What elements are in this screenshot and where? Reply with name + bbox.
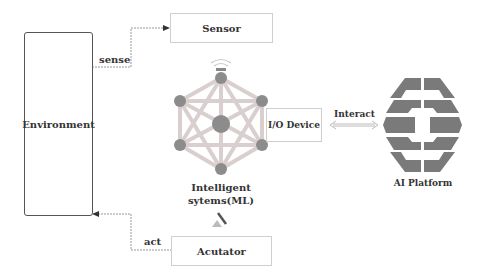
wifi-icon	[211, 60, 231, 67]
robot-arm-icon	[212, 213, 226, 227]
sense-arrowhead-icon	[163, 25, 170, 31]
interact-arrow	[330, 121, 378, 129]
sensor-box: Sensor	[170, 13, 273, 43]
ai-platform-caption: AI Platform	[380, 177, 466, 190]
act-label: act	[144, 236, 161, 247]
antenna-icon	[216, 68, 226, 71]
ai-platform-label: AI Platform	[380, 177, 466, 190]
io-device-label: I/O Device	[268, 120, 320, 130]
sense-label: sense	[99, 54, 130, 65]
actuator-box: Acutator	[171, 236, 272, 266]
ai-platform-logo-icon	[383, 78, 462, 172]
intelligent-system-line2: sytems(ML)	[176, 194, 266, 207]
interact-label: Interact	[334, 109, 375, 119]
intelligent-system-line1: Intelligent	[176, 181, 266, 194]
environment-box: Environment	[24, 32, 93, 216]
sensor-label: Sensor	[202, 23, 240, 34]
actuator-label: Acutator	[197, 246, 246, 257]
intelligent-system-caption: Intelligent sytems(ML)	[176, 181, 266, 207]
environment-label: Environment	[22, 119, 95, 130]
act-arrowhead-icon	[92, 211, 99, 217]
io-device-box: I/O Device	[266, 108, 322, 142]
